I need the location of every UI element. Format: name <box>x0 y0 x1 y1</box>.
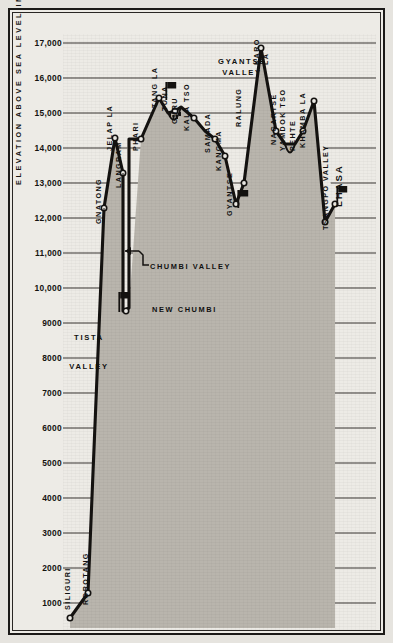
y-tick-10000: 10,000 <box>35 283 62 293</box>
y-tick-5000: 5000 <box>42 458 62 468</box>
marker-kangma <box>222 153 227 158</box>
label-ralung: RALUNG <box>235 88 243 127</box>
label-chumbi-valley: CHUMBI VALLEY <box>150 262 231 271</box>
y-tick-14000: 14,000 <box>35 143 62 153</box>
label-tang-la: TANG LA <box>151 67 159 109</box>
y-tick-11000: 11,000 <box>35 248 62 258</box>
label-yamdok-tso: YAMDOK TSO <box>279 89 287 151</box>
label-guru: GURU <box>171 97 179 124</box>
y-tick-12000: 12,000 <box>35 213 62 223</box>
y-tick-2000: 2000 <box>42 563 62 573</box>
y-tick-7000: 7000 <box>42 388 62 398</box>
y-tick-8000: 8000 <box>42 353 62 363</box>
y-tick-17000: 17,000 <box>35 38 62 48</box>
y-tick-16000: 16,000 <box>35 73 62 83</box>
label-new-chumbi: NEW CHUMBI <box>152 305 217 314</box>
y-tick-9000: 9000 <box>42 318 62 328</box>
label-nagartse: NAGARTSE <box>270 93 278 145</box>
y-tick-1000: 1000 <box>42 598 62 608</box>
y-axis-tick-labels: 17,000 16,000 15,000 14,000 13,000 12,00… <box>16 34 62 630</box>
label-langram: LANGRAM <box>115 141 123 188</box>
y-tick-15000: 15,000 <box>35 108 62 118</box>
y-tick-6000: 6000 <box>42 423 62 433</box>
label-phari: PHARI <box>132 121 140 151</box>
label-valley: VALLEY <box>64 362 114 372</box>
label-pehte: PEHTE <box>289 120 297 151</box>
label-lhasa: LHASA <box>333 164 344 207</box>
y-tick-4000: 4000 <box>42 493 62 503</box>
label-kangma: KANGMA <box>215 130 223 171</box>
y-tick-13000: 13,000 <box>35 178 62 188</box>
marker-siliguri <box>67 615 72 620</box>
label-jelap-la: JELAP LA <box>106 105 114 151</box>
label-gnatong: GNATONG <box>95 178 103 224</box>
marker-kala-tso <box>191 115 196 120</box>
label-kala-tso: KALA TSO <box>183 83 191 131</box>
label-siliguri: SILIGURI <box>64 567 72 610</box>
y-tick-3000: 3000 <box>42 528 62 538</box>
label-gyantse: GYANTSE <box>226 172 234 216</box>
label-tsangpo-valley: TSANGPO VALLEY <box>322 144 330 230</box>
label-khamba-la: KHAMBA LA <box>299 92 307 148</box>
label-tista: TISTA <box>66 333 112 343</box>
label-samada: SAMADA <box>204 113 212 153</box>
marker-ralung <box>241 180 246 185</box>
label-rorotang: ROROTANG <box>82 552 90 605</box>
marker-khamba-la <box>311 98 316 103</box>
label-tuna: TUNA <box>161 85 169 111</box>
elevation-profile-chart: ELEVATION ABOVE SEA LEVEL IN FEET 17,000… <box>0 0 393 643</box>
label-gyantse-valley-1: GYANTSÉ <box>213 57 271 67</box>
label-gyantse-valley-2: VALLEY <box>213 68 271 78</box>
marker-new-chumbi <box>123 308 128 313</box>
